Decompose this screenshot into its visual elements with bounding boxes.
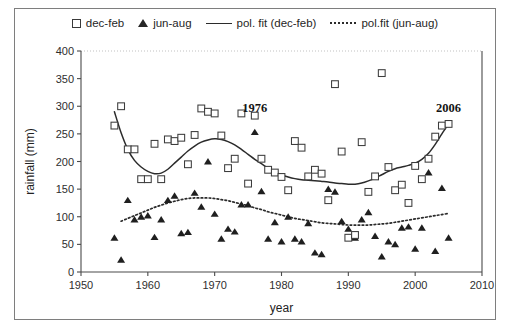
data-point-dec-feb (111, 122, 118, 129)
data-point-dec-feb (231, 155, 238, 162)
figure-container: dec-feb jun-aug pol. fit (dec-feb) pol.f… (0, 0, 513, 336)
data-point-dec-feb (392, 187, 399, 194)
data-point-jun-aug (418, 224, 426, 230)
data-point-dec-feb (278, 174, 285, 181)
data-point-jun-aug (284, 213, 292, 219)
x-tick-label: 1950 (69, 279, 93, 291)
data-point-jun-aug (217, 235, 225, 241)
data-point-dec-feb (305, 173, 312, 180)
data-point-jun-aug (204, 158, 212, 164)
data-point-jun-aug (344, 225, 352, 231)
x-tick-label: 1960 (136, 279, 160, 291)
data-point-jun-aug (110, 234, 118, 240)
annotation-label: 1976 (242, 101, 267, 115)
data-point-jun-aug (197, 203, 205, 209)
x-tick-label: 2000 (403, 279, 427, 291)
data-point-jun-aug (264, 235, 272, 241)
data-point-dec-feb (358, 139, 365, 146)
data-point-dec-feb (118, 103, 125, 110)
data-point-jun-aug (371, 233, 379, 239)
data-point-dec-feb (405, 200, 412, 207)
x-tick-label: 2010 (470, 279, 494, 291)
data-point-jun-aug (298, 238, 306, 244)
y-tick-label: 200 (56, 156, 74, 168)
data-point-dec-feb (432, 133, 439, 140)
y-tick-label: 0 (68, 266, 74, 278)
data-point-dec-feb (352, 232, 359, 239)
data-point-jun-aug (151, 234, 159, 240)
y-tick-label: 400 (56, 45, 74, 57)
y-tick-label: 300 (56, 100, 74, 112)
data-point-jun-aug (404, 223, 412, 229)
data-point-jun-aug (331, 188, 339, 194)
data-point-jun-aug (124, 197, 132, 203)
data-point-jun-aug (231, 228, 239, 234)
y-tick-label: 50 (62, 238, 74, 250)
x-axis-ticks: 1950196019701980199020002010 (69, 272, 494, 291)
data-point-dec-feb (445, 121, 452, 128)
data-point-dec-feb (245, 180, 252, 187)
data-point-dec-feb (291, 138, 298, 145)
data-point-jun-aug (251, 129, 259, 135)
data-point-dec-feb (412, 163, 419, 170)
data-point-jun-aug (384, 238, 392, 244)
data-point-jun-aug (137, 213, 145, 219)
data-point-dec-feb (178, 134, 185, 141)
data-point-dec-feb (218, 132, 225, 139)
data-point-dec-feb (298, 144, 305, 151)
data-point-jun-aug (411, 245, 419, 251)
data-point-dec-feb (225, 165, 232, 172)
data-point-jun-aug (324, 186, 332, 192)
data-point-dec-feb (124, 146, 131, 153)
data-point-jun-aug (438, 185, 446, 191)
data-point-dec-feb (151, 140, 158, 147)
data-point-dec-feb (131, 146, 138, 153)
data-point-jun-aug (177, 230, 185, 236)
data-point-dec-feb (171, 138, 178, 145)
data-point-dec-feb (158, 176, 165, 183)
data-point-jun-aug (117, 256, 125, 262)
data-point-jun-aug (318, 251, 326, 257)
data-point-dec-feb (398, 181, 405, 188)
data-point-jun-aug (358, 216, 366, 222)
data-point-dec-feb (265, 166, 272, 173)
data-point-jun-aug (257, 188, 265, 194)
data-point-jun-aug (378, 253, 386, 259)
data-point-dec-feb (338, 148, 345, 155)
data-point-dec-feb (345, 234, 352, 241)
data-point-jun-aug (445, 234, 453, 240)
x-axis-title: year (270, 301, 293, 315)
x-tick-label: 1980 (269, 279, 293, 291)
data-point-jun-aug (271, 219, 279, 225)
data-point-dec-feb (332, 81, 339, 88)
data-point-jun-aug (311, 249, 319, 255)
data-point-dec-feb (372, 173, 379, 180)
data-point-dec-feb (425, 155, 432, 162)
data-point-jun-aug (431, 247, 439, 253)
data-point-jun-aug (224, 225, 232, 231)
data-point-jun-aug (425, 169, 433, 175)
data-point-dec-feb (378, 70, 385, 77)
data-point-dec-feb (325, 197, 332, 204)
data-point-dec-feb (385, 164, 392, 171)
y-tick-label: 350 (56, 73, 74, 85)
data-point-jun-aug (278, 238, 286, 244)
data-point-dec-feb (285, 187, 292, 194)
data-point-dec-feb (191, 132, 198, 139)
data-point-jun-aug (291, 235, 299, 241)
data-point-dec-feb (205, 108, 212, 115)
data-point-jun-aug (398, 224, 406, 230)
data-point-dec-feb (164, 136, 171, 143)
data-point-dec-feb (439, 122, 446, 129)
annotation-label: 2006 (436, 101, 461, 115)
y-tick-label: 100 (56, 211, 74, 223)
data-point-dec-feb (198, 105, 205, 112)
data-point-dec-feb (258, 155, 265, 162)
chart-annotations: 19762006 (242, 101, 461, 115)
data-point-dec-feb (365, 188, 372, 195)
data-point-jun-aug (391, 241, 399, 247)
plot-area: 050100150200250300350400 195019601970198… (14, 8, 496, 320)
chart-svg: 050100150200250300350400 195019601970198… (14, 8, 496, 320)
data-point-jun-aug (157, 216, 165, 222)
series-dec-feb-points (111, 70, 452, 241)
